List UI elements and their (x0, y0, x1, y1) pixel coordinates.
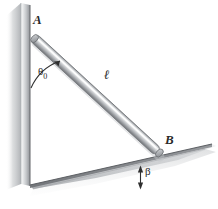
label-rod-length: ℓ (104, 68, 110, 81)
wall-cast-shadow (6, 3, 21, 190)
label-theta-zero-angle: θ0 (38, 66, 47, 80)
leaning-rod (29, 33, 164, 158)
physics-figure-rod-on-incline: A B ℓ θ0 β (0, 0, 218, 209)
label-point-a: A (33, 13, 42, 26)
label-point-b: B (165, 133, 174, 146)
rod-specular-highlight (36, 38, 156, 149)
vertical-wall (6, 3, 30, 190)
figure-canvas (0, 0, 218, 209)
theta-subscript: 0 (43, 72, 47, 81)
ground-upper-edge (30, 144, 212, 185)
rod-body (30, 33, 162, 155)
rod-body-group (30, 33, 162, 155)
wall-face (21, 3, 30, 186)
label-beta-angle: β (145, 166, 151, 177)
